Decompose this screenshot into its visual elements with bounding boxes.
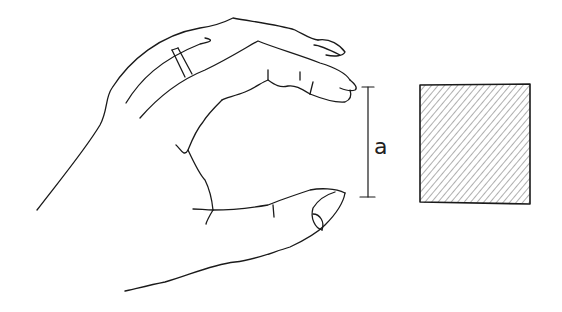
hand-measure-diagram	[0, 0, 562, 312]
hand-illustration	[37, 18, 356, 291]
dimension-label: a	[374, 134, 387, 159]
dimension-marker	[360, 87, 375, 197]
hatched-square	[420, 84, 530, 204]
